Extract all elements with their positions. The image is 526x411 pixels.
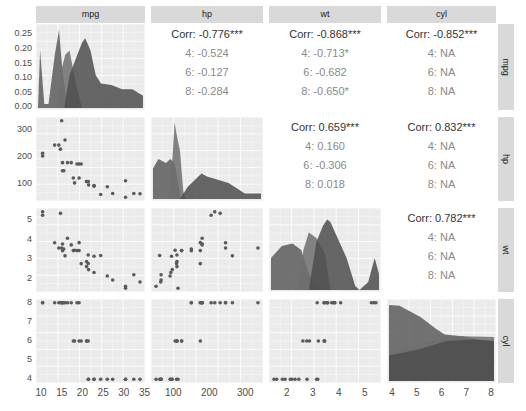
y-tick-label: 0.25 bbox=[2, 28, 32, 38]
density-area bbox=[64, 38, 143, 108]
x-tick-label: 5 bbox=[353, 387, 377, 398]
corr-overall: Corr: 0.659*** bbox=[269, 121, 381, 133]
correlation-text: Corr: -0.776***4: -0.5246: -0.1278: -0.2… bbox=[151, 28, 263, 104]
column-strip-wt: wt bbox=[269, 6, 381, 23]
x-tick-label: 7 bbox=[454, 387, 478, 398]
column-strip-cyl: cyl bbox=[387, 6, 496, 23]
y-tick-label: 2 bbox=[2, 273, 32, 283]
correlation-text: Corr: -0.868***4: -0.713*6: -0.6828: -0.… bbox=[269, 28, 381, 104]
y-tick-label: 0.15 bbox=[2, 58, 32, 68]
x-tick-label: 3 bbox=[301, 387, 325, 398]
y-tick-label: 4 bbox=[2, 234, 32, 244]
column-strip-mpg: mpg bbox=[36, 6, 145, 23]
x-tick-label: 5 bbox=[405, 387, 429, 398]
density-panel-hp bbox=[151, 117, 263, 201]
density-area bbox=[180, 173, 261, 199]
x-tick-label: 4 bbox=[380, 387, 404, 398]
corr-group-4: 4: 0.160 bbox=[269, 140, 381, 152]
corr-overall: Corr: 0.782*** bbox=[387, 212, 496, 224]
corr-panel-mpg-wt: Corr: -0.868***4: -0.713*6: -0.6828: -0.… bbox=[269, 24, 381, 110]
x-tick-label: 8 bbox=[479, 387, 503, 398]
y-tick-label: 6 bbox=[2, 335, 32, 345]
corr-group-4: 4: NA bbox=[387, 47, 496, 59]
correlation-text: Corr: -0.852***4: NA6: NA8: NA bbox=[387, 28, 496, 104]
y-tick-label: 300 bbox=[2, 124, 32, 134]
corr-panel-mpg-hp: Corr: -0.776***4: -0.5246: -0.1278: -0.2… bbox=[151, 24, 263, 110]
y-tick-label: 0.10 bbox=[2, 72, 32, 82]
row-strip-mpg: mpg bbox=[498, 24, 514, 110]
corr-group-4: 4: -0.524 bbox=[151, 47, 263, 59]
row-strip-label: hp bbox=[501, 154, 511, 164]
row-strip-hp: hp bbox=[498, 117, 514, 201]
scatter-panel-cyl-hp bbox=[151, 299, 263, 383]
corr-group-4: 4: NA bbox=[387, 140, 496, 152]
x-tick-label: 2 bbox=[275, 387, 299, 398]
correlation-text: Corr: 0.659***4: 0.1606: -0.3068: 0.018 bbox=[269, 121, 381, 197]
x-tick-label: 100 bbox=[161, 387, 185, 398]
corr-panel-hp-cyl: Corr: 0.832***4: NA6: NA8: NA bbox=[387, 117, 496, 201]
x-tick-label: 35 bbox=[133, 387, 157, 398]
corr-overall: Corr: 0.832*** bbox=[387, 121, 496, 133]
corr-overall: Corr: -0.868*** bbox=[269, 28, 381, 40]
corr-group-8: 8: NA bbox=[387, 178, 496, 190]
row-strip-label: cyl bbox=[501, 336, 511, 347]
y-tick-label: 5 bbox=[2, 354, 32, 364]
y-tick-label: 100 bbox=[2, 178, 32, 188]
y-tick-label: 0.20 bbox=[2, 43, 32, 53]
corr-panel-mpg-cyl: Corr: -0.852***4: NA6: NA8: NA bbox=[387, 24, 496, 110]
y-tick-label: 4 bbox=[2, 373, 32, 383]
x-tick-label: 6 bbox=[430, 387, 454, 398]
y-tick-label: 8 bbox=[2, 297, 32, 307]
corr-group-6: 6: -0.127 bbox=[151, 66, 263, 78]
corr-group-8: 8: 0.018 bbox=[269, 178, 381, 190]
row-strip-label: mpg bbox=[501, 58, 511, 76]
correlation-text: Corr: 0.832***4: NA6: NA8: NA bbox=[387, 121, 496, 197]
scatter-panel-wt-hp bbox=[151, 208, 263, 292]
y-tick-label: 0.05 bbox=[2, 87, 32, 97]
row-strip-cyl: cyl bbox=[498, 299, 514, 383]
scatter-panel-hp-mpg bbox=[36, 117, 145, 201]
corr-group-4: 4: -0.713* bbox=[269, 47, 381, 59]
y-tick-label: 200 bbox=[2, 151, 32, 161]
x-tick-label: 4 bbox=[327, 387, 351, 398]
scatter-panel-wt-mpg bbox=[36, 208, 145, 292]
corr-group-6: 6: NA bbox=[387, 159, 496, 171]
corr-group-6: 6: -0.306 bbox=[269, 159, 381, 171]
y-tick-label: 7 bbox=[2, 316, 32, 326]
corr-group-8: 8: -0.284 bbox=[151, 85, 263, 97]
corr-group-6: 6: NA bbox=[387, 250, 496, 262]
y-tick-label: 5 bbox=[2, 214, 32, 224]
corr-group-6: 6: -0.682 bbox=[269, 66, 381, 78]
y-tick-label: 0.00 bbox=[2, 101, 32, 111]
correlation-text: Corr: 0.782***4: NA6: NA8: NA bbox=[387, 212, 496, 288]
corr-group-8: 8: NA bbox=[387, 85, 496, 97]
corr-overall: Corr: -0.776*** bbox=[151, 28, 263, 40]
scatter-panel-cyl-wt bbox=[269, 299, 381, 383]
density-panel-wt bbox=[269, 208, 381, 292]
column-strip-hp: hp bbox=[151, 6, 263, 23]
x-tick-label: 300 bbox=[233, 387, 257, 398]
density-panel-mpg bbox=[36, 24, 145, 110]
density-area bbox=[309, 220, 379, 290]
x-tick-label: 200 bbox=[197, 387, 221, 398]
row-strip-label: wt bbox=[501, 246, 511, 255]
corr-panel-hp-wt: Corr: 0.659***4: 0.1606: -0.3068: 0.018 bbox=[269, 117, 381, 201]
density-panel-cyl bbox=[387, 299, 496, 383]
scatter-panel-cyl-mpg bbox=[36, 299, 145, 383]
corr-group-4: 4: NA bbox=[387, 231, 496, 243]
corr-group-8: 8: -0.650* bbox=[269, 85, 381, 97]
corr-overall: Corr: -0.852*** bbox=[387, 28, 496, 40]
corr-panel-wt-cyl: Corr: 0.782***4: NA6: NA8: NA bbox=[387, 208, 496, 292]
y-tick-label: 3 bbox=[2, 253, 32, 263]
corr-group-8: 8: NA bbox=[387, 269, 496, 281]
row-strip-wt: wt bbox=[498, 208, 514, 292]
corr-group-6: 6: NA bbox=[387, 66, 496, 78]
